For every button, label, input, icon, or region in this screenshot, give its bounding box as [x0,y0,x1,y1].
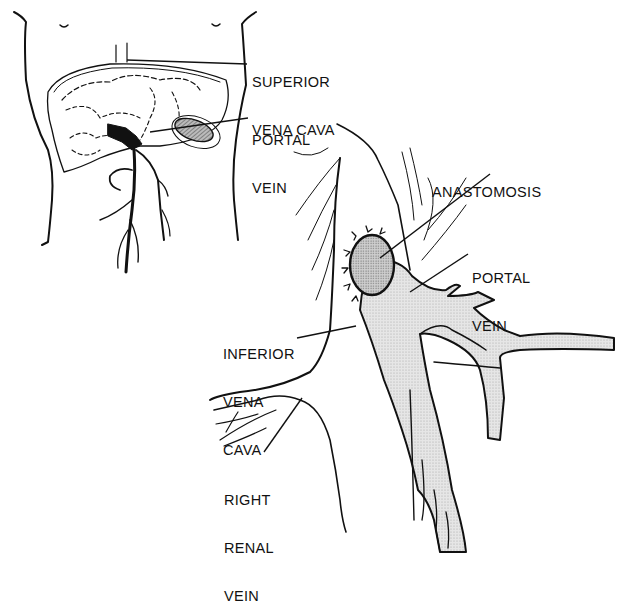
label-portal-vein: PORTAL VEIN [472,238,530,350]
label-portal-vein-inset: PORTAL VEIN [252,100,310,212]
label-inferior-vena-cava: INFERIOR VENA CAVA [223,314,295,474]
label-right-renal-vein: RIGHT RENAL VEIN [224,460,274,605]
torso-inset [14,12,256,272]
label-anastomosis: ANASTOMOSIS [432,152,541,216]
